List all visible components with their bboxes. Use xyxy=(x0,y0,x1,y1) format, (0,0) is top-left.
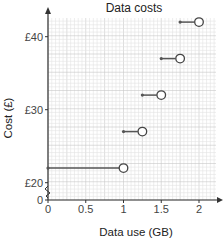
chart-title: Data costs xyxy=(106,1,163,15)
svg-text:0.5: 0.5 xyxy=(78,203,93,215)
data-costs-chart: Data costs 00.511.520£20£30£40 Data use … xyxy=(0,0,224,242)
x-axis-label: Data use (GB) xyxy=(99,226,173,238)
svg-text:£40: £40 xyxy=(25,31,43,43)
svg-text:2: 2 xyxy=(196,203,202,215)
svg-text:1: 1 xyxy=(120,203,126,215)
grid xyxy=(48,18,216,200)
svg-text:0: 0 xyxy=(45,203,51,215)
svg-text:£20: £20 xyxy=(25,177,43,189)
y-axis-label: Cost (£) xyxy=(2,97,14,138)
svg-text:1.5: 1.5 xyxy=(154,203,169,215)
svg-text:0: 0 xyxy=(37,194,43,206)
step-segments xyxy=(46,18,203,173)
svg-text:£30: £30 xyxy=(25,104,43,116)
